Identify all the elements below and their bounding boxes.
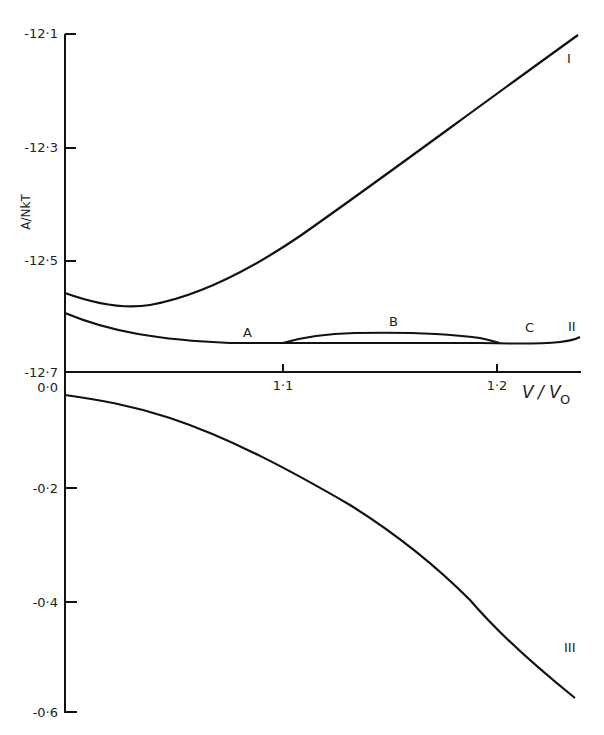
label-curve-I: I (567, 51, 571, 66)
curve-I (65, 35, 578, 307)
label-point-C: C (525, 320, 534, 335)
ytick-label-upper-2: -12·5 (24, 253, 58, 268)
label-curve-III: III (564, 640, 576, 655)
xtick-label-1-2: 1·2 (487, 378, 508, 393)
ytick-label-lower-0: 0·0 (37, 380, 58, 395)
ytick-label-upper-1: -12·3 (24, 140, 58, 155)
label-point-A: A (243, 325, 252, 340)
ytick-label-upper-3: -12·7 (24, 365, 58, 380)
label-point-B: B (389, 314, 398, 329)
ytick-label-lower-1: -0·2 (33, 481, 58, 496)
label-curve-II: II (568, 319, 576, 334)
ytick-label-lower-2: -0·4 (33, 595, 58, 610)
svg-text:/: / (536, 382, 546, 402)
curve-B-branch (283, 333, 500, 343)
curve-III (65, 395, 575, 698)
svg-text:O: O (560, 392, 570, 407)
x-axis-title: V / V O (522, 382, 570, 407)
curve-II (65, 313, 580, 344)
ytick-label-upper-0: -12·1 (24, 26, 58, 41)
svg-text:V: V (522, 382, 535, 402)
chart: -12·1 -12·3 -12·5 -12·7 A/NkT 1·1 1·2 V … (0, 0, 604, 735)
ytick-label-lower-3: -0·6 (33, 705, 58, 720)
xtick-label-1-1: 1·1 (273, 378, 294, 393)
y-axis-title: A/NkT (19, 194, 33, 230)
